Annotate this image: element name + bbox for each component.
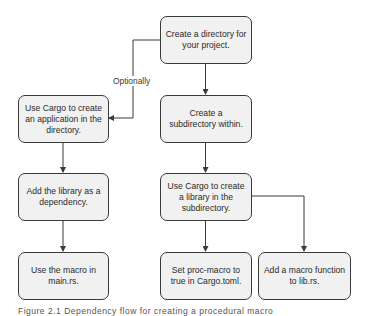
figure-caption: Figure 2.1 Dependency flow for creating …	[18, 306, 273, 316]
node-add-library-dependency: Add the library as a dependency.	[18, 173, 109, 221]
node-cargo-application: Use Cargo to create an application in th…	[18, 95, 109, 143]
node-create-subdirectory: Create a subdirectory within.	[160, 95, 252, 143]
node-cargo-library: Use Cargo to create a library in the sub…	[160, 173, 252, 221]
edge-label-optionally: Optionally	[112, 76, 151, 86]
node-use-macro: Use the macro in main.rs.	[18, 252, 109, 300]
node-add-macro-function: Add a macro function to lib.rs.	[258, 252, 351, 300]
node-set-proc-macro: Set proc-macro to true in Cargo.toml.	[160, 252, 252, 300]
node-create-directory: Create a directory for your project.	[160, 16, 252, 64]
